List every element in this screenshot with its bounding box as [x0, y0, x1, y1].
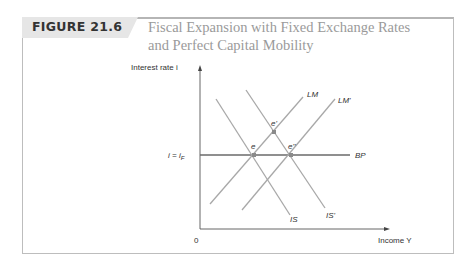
bp-label: BP — [355, 151, 366, 160]
point-e — [252, 153, 256, 157]
point-e-prime — [272, 130, 276, 134]
x-axis-arrow-icon — [384, 227, 390, 231]
y-axis-arrow-icon — [198, 65, 202, 71]
lm-label: LM — [307, 90, 318, 99]
lm-prime-label: LM' — [338, 96, 351, 105]
is-prime-label: IS' — [326, 211, 336, 220]
e-label: e — [251, 142, 256, 151]
diagram: Interest rate i Income Y 0 i = iF BP LM … — [0, 0, 475, 269]
bp-level-label: i = iF — [168, 151, 185, 161]
y-axis-label: Interest rate i — [131, 63, 178, 72]
e-double-prime-label: e'' — [288, 142, 296, 151]
point-e-double-prime — [289, 153, 293, 157]
e-prime-label: e' — [271, 119, 277, 128]
origin-label: 0 — [194, 236, 199, 245]
is-label: IS — [290, 215, 298, 224]
x-axis-label: Income Y — [378, 236, 412, 245]
